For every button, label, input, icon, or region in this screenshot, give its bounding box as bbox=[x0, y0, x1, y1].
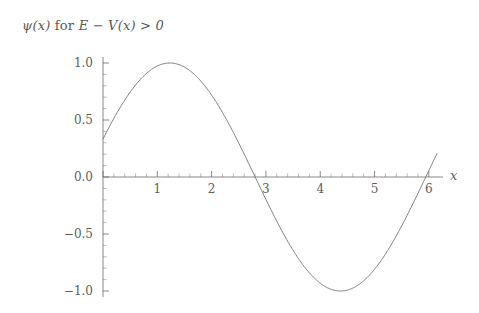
y-tick-label-0.5: 0.5 bbox=[74, 113, 93, 127]
y-axis-tick-labels: −1.0−0.50.00.51.0 bbox=[64, 56, 93, 298]
x-tick-label-5: 5 bbox=[371, 182, 379, 196]
figure-container: ψ(x) for E − V(x) > 0 123456 −1.0−0.50.0… bbox=[0, 0, 479, 313]
y-tick-label-1.0: 1.0 bbox=[74, 56, 93, 70]
x-axis-major-ticks bbox=[103, 171, 429, 177]
x-tick-label-4: 4 bbox=[316, 182, 324, 196]
x-tick-label-2: 2 bbox=[208, 182, 216, 196]
x-axis-label: x bbox=[450, 168, 458, 183]
x-tick-label-1: 1 bbox=[153, 182, 161, 196]
x-axis-tick-labels: 123456 bbox=[153, 182, 432, 196]
axis-lines bbox=[103, 57, 443, 297]
chart-svg: 123456 −1.0−0.50.00.51.0 x bbox=[0, 0, 479, 313]
y-tick-label-−0.5: −0.5 bbox=[64, 227, 93, 241]
y-tick-label-−1.0: −1.0 bbox=[64, 284, 93, 298]
y-tick-label-0.0: 0.0 bbox=[74, 170, 93, 184]
x-tick-label-6: 6 bbox=[425, 182, 433, 196]
